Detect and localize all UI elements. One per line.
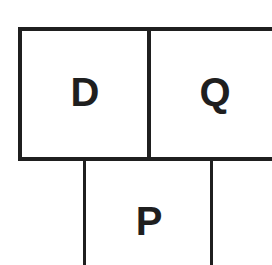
bottom-row-left-border bbox=[83, 157, 86, 265]
top-border bbox=[18, 27, 272, 31]
left-border bbox=[18, 27, 22, 161]
bottom-row-right-border bbox=[210, 157, 213, 265]
cell-label-d: D bbox=[55, 72, 115, 112]
row-divider bbox=[18, 157, 272, 161]
cell-label-q: Q bbox=[185, 72, 245, 112]
cell-label-p: P bbox=[119, 201, 179, 241]
top-row-divider bbox=[147, 27, 151, 161]
